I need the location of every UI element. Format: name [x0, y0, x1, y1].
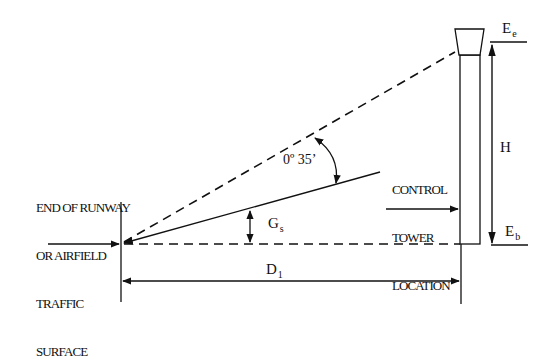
angle-label: 0º 35’ — [283, 152, 317, 168]
runway-end-label-line-4: SURFACE — [36, 344, 130, 360]
tower-label-line-2: TOWER — [392, 230, 450, 246]
h-label: H — [500, 139, 511, 156]
ee-label: Ee — [502, 20, 517, 37]
runway-end-label: END OF RUNWAY OR AIRFIELD TRAFFIC SURFAC… — [36, 168, 130, 360]
angle-arc — [315, 138, 337, 183]
tower-location-label: CONTROL TOWER LOCATION — [392, 150, 450, 310]
tower-shaft — [460, 55, 480, 244]
eb-label: Eb — [505, 223, 520, 240]
tower-label-line-1: CONTROL — [392, 182, 450, 198]
runway-end-label-line-3: TRAFFIC — [36, 296, 130, 312]
runway-end-label-line-1: END OF RUNWAY — [36, 200, 130, 216]
tower-cab — [455, 29, 484, 55]
gs-sub: s — [280, 223, 284, 234]
ee-sub: e — [512, 28, 516, 39]
gs-label: Gs — [268, 215, 284, 232]
d1-main: D — [266, 261, 277, 277]
eb-main: E — [505, 223, 514, 239]
eb-sub: b — [515, 231, 520, 242]
glide-surface-line — [124, 172, 380, 243]
gs-main: G — [268, 215, 279, 231]
tower-label-line-3: LOCATION — [392, 278, 450, 294]
ee-main: E — [502, 20, 511, 36]
d1-label: D1 — [266, 261, 283, 278]
runway-end-label-line-2: OR AIRFIELD — [36, 248, 130, 264]
d1-sub: 1 — [278, 269, 283, 280]
